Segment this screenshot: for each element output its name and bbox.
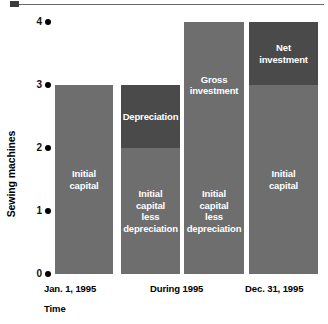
y-tick-label-1: 1 [36, 205, 42, 217]
y-tick-dot-0 [45, 271, 51, 277]
y-axis-title: Sewing machines [5, 109, 17, 239]
chart-figure: 4 3 2 1 0 Sewing machines Initial capita… [0, 0, 328, 324]
y-tick-dot-1 [45, 208, 51, 214]
segment-label: Depreciation [122, 111, 180, 123]
segment-initial-capital[interactable]: Initial capital [249, 85, 318, 274]
x-axis-title: Time [44, 303, 66, 314]
y-tick-label-2: 2 [36, 142, 42, 154]
segment-initial-capital-less-depreciation[interactable]: Initial capital less depreciation [184, 148, 244, 274]
x-label-during-1995: During 1995 [150, 283, 203, 294]
segment-label: Gross investment [189, 74, 240, 97]
segment-label: Net investment [258, 42, 309, 65]
x-label-dec-31-1995: Dec. 31, 1995 [245, 283, 303, 294]
y-tick-label-3: 3 [36, 79, 42, 91]
y-tick-3: 3 [0, 79, 52, 91]
segment-label: Initial capital [268, 168, 299, 191]
y-tick-dot-4 [45, 19, 51, 25]
y-tick-dot-3 [45, 82, 51, 88]
segment-label: Initial capital less depreciation [186, 188, 243, 234]
x-label-jan-1-1995: Jan. 1, 1995 [44, 283, 96, 294]
y-tick-0: 0 [0, 268, 52, 280]
y-tick-label-4: 4 [36, 16, 42, 28]
segment-net-investment[interactable]: Net investment [249, 22, 318, 85]
segment-label: Initial capital [68, 168, 99, 191]
plot-area: 4 3 2 1 0 Sewing machines Initial capita… [0, 0, 328, 324]
y-tick-dot-2 [45, 145, 51, 151]
segment-depreciation[interactable]: Depreciation [121, 85, 180, 148]
segment-initial-capital[interactable]: Initial capital [55, 85, 113, 274]
bar-net-investment[interactable]: Net investment Initial capital [249, 22, 318, 274]
bar-depreciation[interactable]: Depreciation Initial capital less deprec… [121, 85, 180, 274]
segment-initial-capital-less-depreciation[interactable]: Initial capital less depreciation [121, 148, 180, 274]
bar-gross-investment[interactable]: Gross investment Initial capital less de… [184, 22, 244, 274]
y-tick-label-0: 0 [36, 268, 42, 280]
segment-gross-investment[interactable]: Gross investment [184, 22, 244, 148]
y-tick-4: 4 [0, 16, 52, 28]
segment-label: Initial capital less depreciation [122, 188, 179, 234]
bar-initial-capital[interactable]: Initial capital [55, 85, 113, 274]
